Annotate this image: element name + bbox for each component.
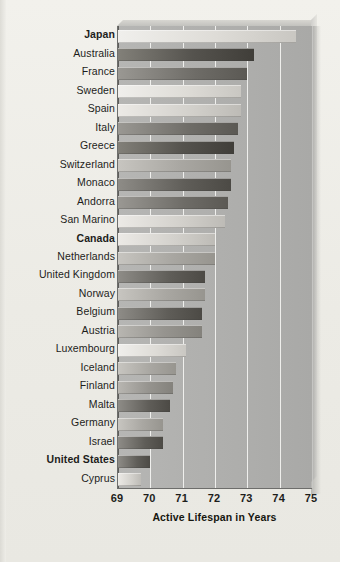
category-label-greece: Greece xyxy=(4,139,115,151)
x-tick-75: 75 xyxy=(305,492,318,504)
x-axis-title: Active Lifespan in Years xyxy=(117,511,312,523)
category-label-andorra: Andorra xyxy=(4,195,115,207)
category-label-norway: Norway xyxy=(4,287,115,299)
x-axis-line xyxy=(117,488,312,489)
x-tick-70: 70 xyxy=(143,492,156,504)
bar-norway xyxy=(118,288,205,301)
category-label-malta: Malta xyxy=(4,398,115,410)
bar-netherlands xyxy=(118,252,215,265)
category-label-belgium: Belgium xyxy=(4,305,115,317)
category-label-finland: Finland xyxy=(4,379,115,391)
x-tick-73: 73 xyxy=(240,492,253,504)
category-label-united-kingdom: United Kingdom xyxy=(4,268,115,280)
gridline-74 xyxy=(280,26,281,488)
category-label-canada: Canada xyxy=(4,232,115,244)
bar-italy xyxy=(118,122,238,135)
bar-monaco xyxy=(118,178,231,191)
category-label-monaco: Monaco xyxy=(4,176,115,188)
gridline-75 xyxy=(312,26,313,488)
bar-spain xyxy=(118,104,241,117)
category-label-germany: Germany xyxy=(4,416,115,428)
bar-malta xyxy=(118,399,170,412)
bar-chart: JapanAustraliaFranceSwedenSpainItalyGree… xyxy=(0,0,340,562)
category-label-switzerland: Switzerland xyxy=(4,158,115,170)
category-label-netherlands: Netherlands xyxy=(4,250,115,262)
category-label-cyprus: Cyprus xyxy=(4,472,115,484)
gridline-73 xyxy=(247,26,248,488)
x-tick-71: 71 xyxy=(175,492,188,504)
category-label-sweden: Sweden xyxy=(4,84,115,96)
bar-germany xyxy=(118,418,163,431)
bar-luxembourg xyxy=(118,344,186,357)
bar-belgium xyxy=(118,307,202,320)
x-tick-72: 72 xyxy=(208,492,221,504)
bar-france xyxy=(118,67,247,80)
category-label-iceland: Iceland xyxy=(4,361,115,373)
bar-greece xyxy=(118,141,234,154)
bar-japan xyxy=(118,30,296,43)
category-label-japan: Japan xyxy=(4,28,115,40)
bar-israel xyxy=(118,436,163,449)
page-background: JapanAustraliaFranceSwedenSpainItalyGree… xyxy=(0,0,340,562)
bar-canada xyxy=(118,233,215,246)
category-label-france: France xyxy=(4,65,115,77)
category-label-israel: Israel xyxy=(4,435,115,447)
bar-united-states xyxy=(118,455,150,468)
category-label-spain: Spain xyxy=(4,102,115,114)
x-tick-69: 69 xyxy=(111,492,124,504)
bar-switzerland xyxy=(118,159,231,172)
x-tick-74: 74 xyxy=(272,492,285,504)
bar-andorra xyxy=(118,196,228,209)
bar-australia xyxy=(118,48,254,61)
bar-sweden xyxy=(118,85,241,98)
category-label-australia: Australia xyxy=(4,47,115,59)
bar-united-kingdom xyxy=(118,270,205,283)
category-label-united-states: United States xyxy=(4,453,115,465)
bar-austria xyxy=(118,325,202,338)
category-label-luxembourg: Luxembourg xyxy=(4,342,115,354)
bar-cyprus xyxy=(118,473,141,486)
bar-finland xyxy=(118,381,173,394)
bar-iceland xyxy=(118,362,176,375)
plot-area xyxy=(117,26,311,488)
category-label-san-marino: San Marino xyxy=(4,213,115,225)
category-label-austria: Austria xyxy=(4,324,115,336)
category-label-italy: Italy xyxy=(4,121,115,133)
bar-san-marino xyxy=(118,215,225,228)
